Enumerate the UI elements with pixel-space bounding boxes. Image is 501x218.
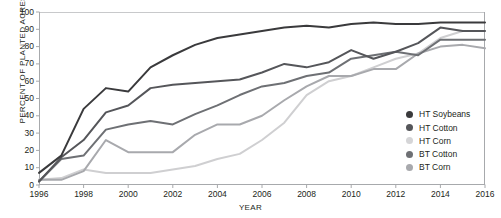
legend-item-bt-corn[interactable]: BT Corn bbox=[406, 161, 470, 174]
x-tick-2004: 2004 bbox=[208, 190, 227, 199]
x-tick-2016: 2016 bbox=[476, 190, 495, 199]
x-tick-2010: 2010 bbox=[342, 190, 361, 199]
x-tick-2014: 2014 bbox=[431, 190, 450, 199]
legend-marker-icon bbox=[406, 137, 413, 144]
x-tick-2008: 2008 bbox=[297, 190, 316, 199]
legend-label: HT Soybeans bbox=[419, 110, 470, 119]
x-axis-title: YEAR bbox=[0, 203, 501, 212]
chart-legend: HT SoybeansHT CottonHT CornBT CottonBT C… bbox=[406, 108, 470, 174]
legend-item-bt-cotton[interactable]: BT Cotton bbox=[406, 148, 470, 161]
legend-marker-icon bbox=[406, 124, 413, 131]
legend-label: BT Corn bbox=[419, 163, 451, 172]
x-tick-2006: 2006 bbox=[253, 190, 272, 199]
x-tick-2012: 2012 bbox=[386, 190, 405, 199]
x-tick-1996: 1996 bbox=[30, 190, 49, 199]
legend-marker-icon bbox=[406, 111, 413, 118]
legend-item-ht-cotton[interactable]: HT Cotton bbox=[406, 121, 470, 134]
legend-item-ht-corn[interactable]: HT Corn bbox=[406, 134, 470, 147]
legend-label: BT Cotton bbox=[419, 150, 457, 159]
legend-label: HT Corn bbox=[419, 137, 451, 146]
chart-figure: PERCENT OF PLANTED ACRES 010203040506070… bbox=[0, 0, 501, 218]
legend-item-ht-soybeans[interactable]: HT Soybeans bbox=[406, 108, 470, 121]
legend-label: HT Cotton bbox=[419, 124, 458, 133]
legend-marker-icon bbox=[406, 164, 413, 171]
x-tick-2000: 2000 bbox=[119, 190, 138, 199]
x-tick-1998: 1998 bbox=[74, 190, 93, 199]
x-tick-2002: 2002 bbox=[163, 190, 182, 199]
legend-marker-icon bbox=[406, 151, 413, 158]
